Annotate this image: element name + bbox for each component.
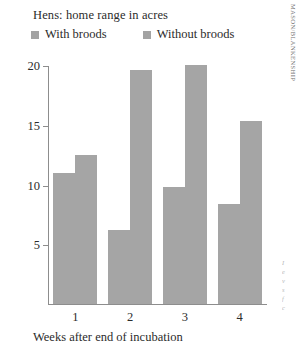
figure-page: Hens: home range in acres With broods Wi… [0, 0, 298, 356]
margin-text-line: e [282, 267, 296, 276]
bar-group [53, 66, 97, 304]
x-axis-tick-label: 3 [182, 310, 188, 325]
bar [75, 155, 97, 304]
y-axis-tick-label: 20 [28, 60, 41, 73]
bar-group [108, 66, 152, 304]
chart-title: Hens: home range in acres [33, 8, 168, 23]
bar [130, 70, 152, 304]
margin-text-line: c [282, 303, 296, 312]
margin-text-line: f [282, 294, 296, 303]
y-axis-tick-label: 10 [28, 179, 41, 192]
y-axis-tick-label: 15 [28, 120, 41, 133]
bar-group [218, 66, 262, 304]
legend-swatch-icon [31, 31, 39, 39]
bar [218, 204, 240, 304]
x-axis-tick-label: 1 [72, 310, 78, 325]
bar [53, 173, 75, 304]
x-axis-title: Weeks after end of incubation [33, 330, 183, 345]
margin-text-line: v [282, 276, 296, 285]
bar [163, 187, 185, 304]
margin-text-line: s [282, 285, 296, 294]
page-margin-text: Ievsfc [282, 258, 296, 312]
legend-label: With broods [45, 27, 107, 42]
bar-series-container [48, 66, 267, 304]
legend-item-with-broods: With broods [31, 27, 107, 42]
x-axis-line [48, 304, 267, 305]
figure-credit: MASON/BLANKENSHIP [290, 4, 297, 81]
y-axis-tick-label: 5 [34, 239, 40, 252]
plot-area: 5101520 [48, 66, 267, 305]
x-axis-tick-label: 2 [127, 310, 133, 325]
x-axis-tick-labels: 1234 [48, 310, 267, 326]
bar [108, 230, 130, 304]
chart-legend: With broods Without broods [31, 27, 234, 42]
margin-text-line: I [282, 258, 296, 267]
legend-label: Without broods [157, 27, 235, 42]
bar [185, 65, 207, 304]
legend-swatch-icon [143, 31, 151, 39]
legend-item-without-broods: Without broods [143, 27, 235, 42]
bar [240, 121, 262, 304]
bar-group [163, 66, 207, 304]
x-axis-tick-label: 4 [237, 310, 243, 325]
